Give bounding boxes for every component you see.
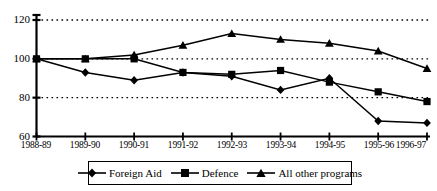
legend-label-all-other-programs: All other programs <box>278 167 362 179</box>
data-point <box>375 88 382 95</box>
triangle-marker-icon <box>247 167 275 179</box>
data-point <box>81 68 89 76</box>
x-axis-tick-0: 1988-89 <box>13 140 59 150</box>
legend-item-foreign-aid: Foreign Aid <box>78 167 162 179</box>
data-point <box>130 76 138 84</box>
data-point <box>423 119 431 127</box>
data-point <box>277 86 285 94</box>
x-axis-tick-1: 1989-90 <box>62 140 108 150</box>
x-axis-tick-2: 1990-91 <box>111 140 157 150</box>
data-point <box>228 71 235 78</box>
data-point <box>179 69 186 76</box>
line-chart: 120 100 80 60 1988-89 1989-90 1990-91 19… <box>0 0 437 191</box>
x-axis-tick-4: 1992-93 <box>209 140 255 150</box>
series-all-other-programs <box>32 29 431 72</box>
legend-item-all-other-programs: All other programs <box>247 167 362 179</box>
square-marker-icon <box>171 167 199 179</box>
data-series-layer <box>32 29 431 127</box>
data-point <box>277 67 284 74</box>
data-point <box>227 29 236 37</box>
x-axis-tick-8: 1996-97 <box>388 140 434 150</box>
diamond-marker-icon <box>78 167 106 179</box>
legend-item-defence: Defence <box>171 167 239 179</box>
legend-label-defence: Defence <box>202 167 239 179</box>
x-axis-tick-5: 1993-94 <box>258 140 304 150</box>
x-axis-tick-6: 1994-95 <box>307 140 353 150</box>
x-axis-tick-3: 1991-92 <box>160 140 206 150</box>
data-point <box>326 79 333 86</box>
chart-legend: Foreign Aid Defence All other programs <box>88 161 352 185</box>
legend-label-foreign-aid: Foreign Aid <box>109 167 162 179</box>
data-point <box>423 98 430 105</box>
